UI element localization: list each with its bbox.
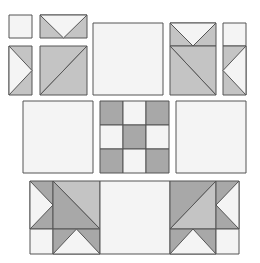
corner-square: [216, 229, 239, 254]
bottom-row: [30, 181, 239, 254]
nine-patch-center: [100, 101, 169, 173]
assembled-corner-block-right: [170, 181, 239, 254]
corner-square: [30, 229, 53, 254]
nine-patch-cell: [123, 125, 146, 149]
small-square-top-left: [9, 15, 32, 38]
square-patch: [23, 101, 93, 173]
top-row: [9, 15, 246, 95]
quilt-diagram-svg: [0, 0, 260, 263]
quilt-diagram: [0, 0, 260, 263]
nine-patch-cell: [146, 101, 169, 125]
square-patch: [223, 23, 246, 46]
flying-geese-top-right: [170, 23, 216, 46]
square-patch: [100, 181, 170, 254]
small-square-top-right: [223, 23, 246, 46]
nine-patch-cell: [100, 149, 123, 173]
plain-square-top-center: [93, 23, 163, 95]
half-square-triangle-right: [170, 46, 216, 95]
plain-square-middle-left: [23, 101, 93, 173]
square-patch: [93, 23, 163, 95]
flying-geese-top-left: [40, 15, 87, 38]
assembled-corner-block-left: [30, 181, 100, 254]
plain-square-bottom-center: [100, 181, 170, 254]
side-triangle-unit-left: [9, 46, 32, 95]
middle-row: [23, 101, 246, 173]
nine-patch-cell: [100, 101, 123, 125]
nine-patch-cell: [123, 149, 146, 173]
nine-patch-cell: [123, 101, 146, 125]
side-triangle-unit-right: [223, 46, 246, 95]
nine-patch-cell: [146, 149, 169, 173]
square-patch: [176, 101, 246, 173]
square-patch: [9, 15, 32, 38]
plain-square-middle-right: [176, 101, 246, 173]
nine-patch-cell: [146, 125, 169, 149]
nine-patch-cell: [100, 125, 123, 149]
half-square-triangle-left: [40, 46, 87, 95]
